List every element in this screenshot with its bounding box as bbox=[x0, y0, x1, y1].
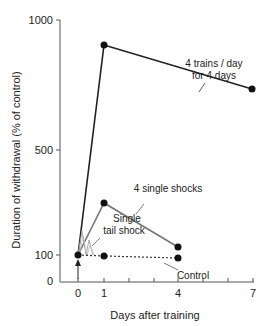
x-axis-label: Days after training bbox=[110, 309, 199, 321]
label-4-single-shocks: 4 single shocks bbox=[134, 183, 202, 194]
label-single-tail-shock-line1: Single bbox=[113, 213, 141, 224]
x-axis: 0 1 4 7 Days after training bbox=[60, 278, 256, 321]
series-control: Control bbox=[75, 252, 210, 282]
label-4-trains-line1: 4 trains / day bbox=[185, 58, 242, 69]
y-tick-500: 500 bbox=[35, 144, 53, 156]
y-tick-100: 100 bbox=[35, 249, 53, 261]
training-arrow-icon bbox=[75, 259, 81, 279]
series-4-trains: 4 trains / day for 4 days bbox=[78, 42, 256, 256]
x-tick-7: 7 bbox=[250, 287, 256, 299]
y-axis-label: Duration of withdrawal (% of control) bbox=[10, 71, 22, 248]
line-chart: 1000 500 100 0 Duration of withdrawal (%… bbox=[0, 0, 273, 326]
x-tick-0: 0 bbox=[75, 287, 81, 299]
x-tick-1: 1 bbox=[101, 287, 107, 299]
label-4-trains-line2: for 4 days bbox=[192, 70, 236, 81]
y-tick-0: 0 bbox=[47, 275, 53, 287]
label-control: Control bbox=[177, 270, 209, 281]
label-single-tail-shock-line2: tail shock bbox=[103, 225, 146, 236]
x-tick-4: 4 bbox=[175, 287, 181, 299]
y-tick-1000: 1000 bbox=[29, 14, 53, 26]
y-axis: 1000 500 100 0 Duration of withdrawal (%… bbox=[10, 14, 60, 287]
